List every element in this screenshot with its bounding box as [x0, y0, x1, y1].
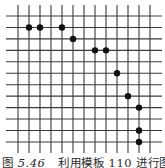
pattern-dot	[114, 70, 120, 76]
pattern-dot	[103, 47, 109, 53]
pattern-dot	[136, 104, 142, 110]
pattern-dot	[125, 93, 131, 99]
pattern-dot	[37, 24, 43, 30]
figure-caption: 图 5.46 利用模板 110 进行图案收	[2, 156, 165, 168]
pattern-dot	[136, 127, 142, 133]
grid-figure: 图 5.46 利用模板 110 进行图案收	[0, 0, 165, 168]
caption-number: 5.46	[18, 156, 46, 168]
caption-label: 图	[2, 156, 14, 168]
pattern-dot	[59, 24, 65, 30]
pattern-dot	[136, 139, 142, 145]
pattern-dot	[92, 47, 98, 53]
pattern-dot	[70, 36, 76, 42]
caption-text: 利用模板 110 进行图案收	[58, 156, 165, 168]
pattern-grid	[0, 0, 165, 168]
pattern-dot	[26, 24, 32, 30]
